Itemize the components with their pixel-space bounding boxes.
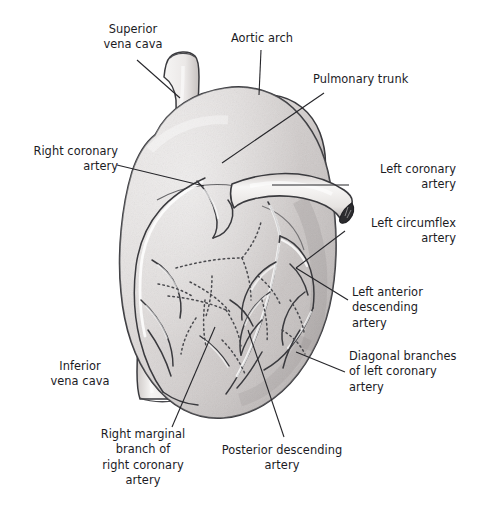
- label-inferior-vena-cava: Inferior vena cava: [40, 359, 120, 390]
- label-posterior-descending-artery: Posterior descending artery: [209, 443, 355, 474]
- label-superior-vena-cava: Superior vena cava: [94, 22, 172, 53]
- label-right-marginal-branch: Right marginal branch of right coronary …: [88, 427, 198, 489]
- label-left-coronary-artery: Left coronary artery: [352, 162, 456, 193]
- label-left-circumflex-artery: Left circumflex artery: [348, 216, 456, 247]
- label-aortic-arch: Aortic arch: [212, 31, 312, 46]
- leader-aortic-arch: [259, 50, 261, 95]
- heart-anatomy-figure: Superior vena cava Aortic arch Pulmonary…: [0, 0, 478, 514]
- label-right-coronary-artery: Right coronary artery: [12, 144, 118, 175]
- label-left-anterior-descending-artery: Left anterior descending artery: [352, 285, 464, 331]
- label-pulmonary-trunk: Pulmonary trunk: [313, 72, 453, 87]
- label-diagonal-branches: Diagonal branches of left coronary arter…: [349, 349, 477, 395]
